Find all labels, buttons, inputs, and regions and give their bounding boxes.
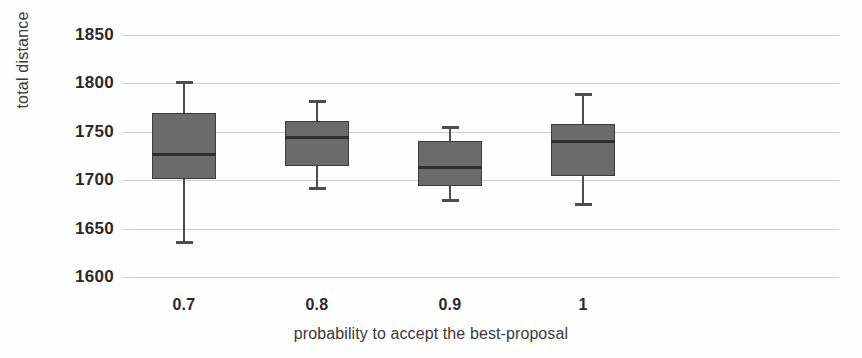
upper-whisker (316, 100, 318, 121)
y-axis-tick-1800: 1800 (54, 73, 114, 93)
x-axis-tick-0.9: 0.9 (405, 296, 495, 314)
box-iqr (152, 113, 216, 179)
upper-whisker (582, 93, 584, 124)
x-axis-tick-0.8: 0.8 (272, 296, 362, 314)
upper-whisker-cap (309, 100, 326, 103)
x-axis-tick-1: 1 (538, 296, 628, 314)
y-axis-tick-1650: 1650 (54, 219, 114, 239)
lower-whisker-cap (442, 199, 459, 202)
median-line (551, 140, 615, 143)
median-line (152, 153, 216, 156)
median-line (418, 166, 482, 169)
lower-whisker-cap (309, 187, 326, 190)
y-axis-tick-1750: 1750 (54, 122, 114, 142)
x-axis-tick-0.7: 0.7 (139, 296, 229, 314)
median-line (285, 136, 349, 139)
y-axis-tick-1600: 1600 (54, 267, 114, 287)
upper-whisker-cap (442, 126, 459, 129)
box-iqr (418, 141, 482, 186)
box-iqr (285, 121, 349, 166)
y-axis-tick-1700: 1700 (54, 170, 114, 190)
upper-whisker (183, 81, 185, 113)
y-axis-title: total distance (14, 0, 32, 135)
lower-whisker (582, 176, 584, 206)
box-iqr (551, 124, 615, 176)
lower-whisker-cap (575, 203, 592, 206)
y-axis-tick-1850: 1850 (54, 25, 114, 45)
lower-whisker-cap (176, 241, 193, 244)
box-plot-chart: total distance 185018001750170016501600 … (0, 0, 862, 358)
lower-whisker (183, 179, 185, 244)
y-axis-tick-labels: 185018001750170016501600 (52, 0, 114, 358)
upper-whisker-cap (575, 93, 592, 96)
upper-whisker-cap (176, 81, 193, 84)
x-axis-title: probability to accept the best-proposal (0, 325, 862, 343)
